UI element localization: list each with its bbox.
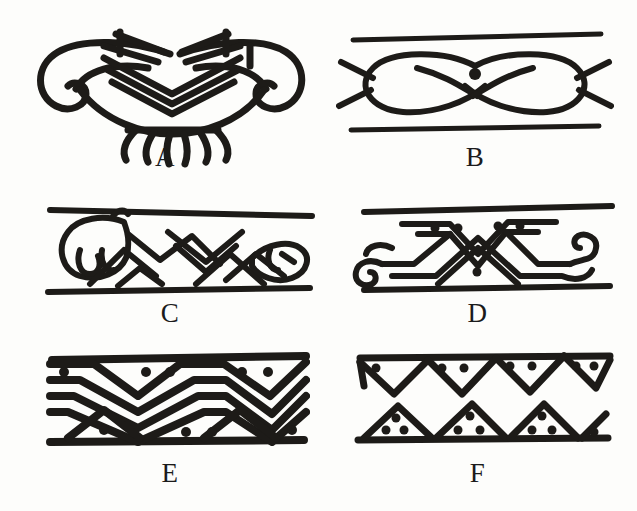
panel-d: D [330, 188, 625, 338]
motif-b-center-dot [469, 68, 481, 80]
panel-d-label: D [330, 298, 625, 329]
panel-e-label: E [20, 458, 320, 489]
panel-f: F [330, 346, 625, 506]
panel-e: E [20, 346, 320, 506]
panel-c-label: C [20, 298, 320, 329]
panel-a: A [12, 10, 318, 180]
panel-c: C [20, 188, 320, 338]
figure-plate: A [0, 0, 637, 511]
panel-f-label: F [330, 458, 625, 489]
panel-b: B [325, 10, 625, 180]
panel-a-label: A [12, 142, 318, 173]
panel-b-label: B [325, 142, 625, 173]
